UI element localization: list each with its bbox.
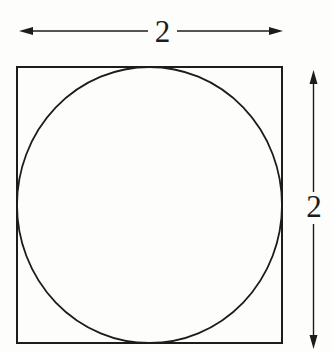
figure-canvas: 2 2 [0,0,332,353]
geometry-figure: 2 2 [0,0,332,353]
top-dimension-label: 2 [155,14,171,49]
right-dimension-label: 2 [306,189,322,224]
